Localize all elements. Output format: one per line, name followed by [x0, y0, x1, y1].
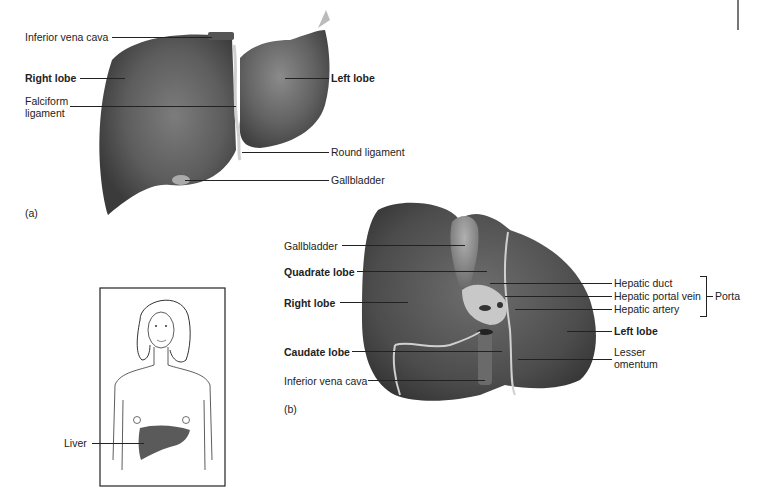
leader-line [92, 443, 144, 444]
leader-line [70, 106, 236, 107]
label-b-hepatic-duct: Hepatic duct [614, 277, 672, 289]
label-b-left-lobe: Left lobe [614, 325, 658, 337]
label-inset-liver: Liver [64, 437, 87, 449]
porta-bracket [700, 276, 707, 317]
panel-label-b: (b) [284, 403, 297, 415]
leader-line [285, 78, 329, 79]
leader-line [515, 309, 612, 310]
label-a-right-lobe: Right lobe [25, 72, 76, 84]
leader-line [707, 296, 713, 297]
label-b-inferior-vena-cava: Inferior vena cava [284, 375, 367, 387]
label-a-inferior-vena-cava: Inferior vena cava [25, 31, 108, 43]
leader-line [352, 351, 502, 352]
leader-line [342, 245, 465, 246]
label-b-lesser-omentum: Lesser omentum [614, 346, 664, 370]
leader-line [368, 380, 485, 381]
label-b-porta: Porta [715, 290, 740, 302]
leader-line [185, 180, 329, 181]
leader-line [505, 296, 612, 297]
leader-line [80, 78, 125, 79]
label-a-falciform-ligament: Falciform ligament [25, 95, 85, 119]
liver-illustrations [0, 0, 759, 492]
leader-line [567, 331, 612, 332]
leader-line [357, 271, 487, 272]
label-a-left-lobe: Left lobe [331, 72, 375, 84]
liver-anterior-view [99, 10, 330, 215]
leader-line [112, 37, 212, 38]
label-b-hepatic-artery: Hepatic artery [614, 303, 679, 315]
leader-line [242, 152, 329, 153]
body-outline-inset [100, 288, 225, 486]
panel-label-a: (a) [25, 207, 38, 219]
label-a-round-ligament: Round ligament [331, 146, 405, 158]
leader-line [340, 302, 408, 303]
label-b-right-lobe: Right lobe [284, 297, 335, 309]
label-a-gallbladder: Gallbladder [331, 174, 385, 186]
leader-line [490, 283, 612, 284]
label-b-gallbladder: Gallbladder [284, 240, 338, 252]
label-b-hepatic-portal-vein: Hepatic portal vein [614, 290, 701, 302]
leader-line [518, 359, 612, 360]
label-b-caudate-lobe: Caudate lobe [284, 346, 350, 358]
label-b-quadrate-lobe: Quadrate lobe [284, 266, 355, 278]
